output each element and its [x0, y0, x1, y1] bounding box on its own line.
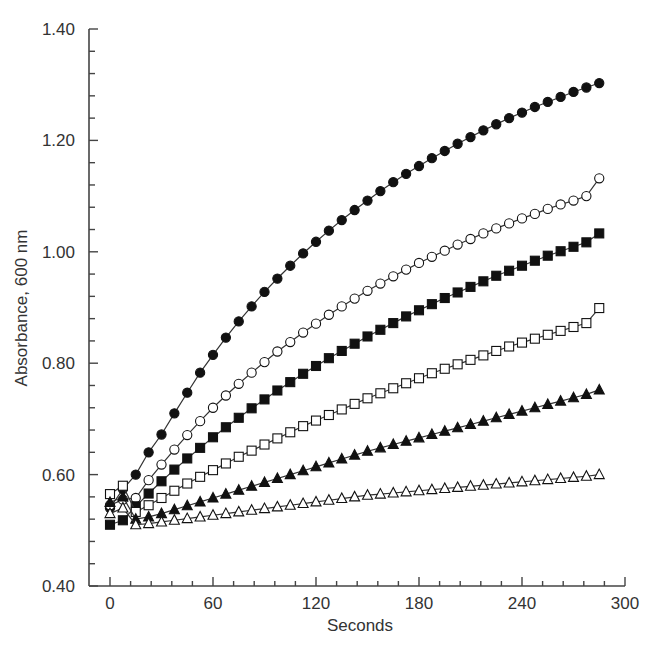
data-point — [196, 368, 205, 377]
data-point — [363, 394, 372, 403]
data-point — [208, 403, 217, 412]
data-point — [414, 161, 423, 170]
data-point — [299, 422, 308, 431]
data-point — [183, 454, 192, 463]
data-point — [479, 229, 488, 238]
data-point — [234, 317, 243, 326]
y-tick-label: 1.20 — [42, 131, 75, 150]
data-point — [517, 214, 526, 223]
data-point — [324, 411, 333, 420]
data-point — [337, 346, 346, 355]
data-point — [273, 347, 282, 356]
data-point — [376, 389, 385, 398]
data-point — [157, 477, 166, 486]
data-point — [582, 83, 591, 92]
data-point — [415, 374, 424, 383]
data-point — [479, 277, 488, 286]
data-point — [569, 87, 578, 96]
data-point — [595, 78, 604, 87]
data-point — [479, 126, 488, 135]
data-point — [427, 300, 436, 309]
data-point — [543, 330, 552, 339]
data-point — [196, 443, 205, 452]
data-point — [389, 178, 398, 187]
data-point — [312, 416, 321, 425]
data-point — [247, 368, 256, 377]
data-point — [389, 319, 398, 328]
data-point — [505, 114, 514, 123]
data-point — [324, 354, 333, 363]
data-point — [466, 282, 475, 291]
data-point — [234, 413, 243, 422]
data-point — [131, 470, 140, 479]
y-tick-label: 1.40 — [42, 20, 75, 39]
data-point — [440, 146, 449, 155]
data-point — [427, 369, 436, 378]
data-point — [183, 388, 192, 397]
data-point — [569, 196, 578, 205]
data-point — [402, 379, 411, 388]
series-triangle-open — [105, 469, 604, 529]
data-point — [402, 169, 411, 178]
data-point — [157, 460, 166, 469]
data-point — [594, 469, 604, 479]
x-tick-label: 0 — [105, 594, 114, 613]
data-point — [453, 139, 462, 148]
data-point — [466, 234, 475, 243]
data-point — [453, 240, 462, 249]
data-point — [363, 286, 372, 295]
data-point — [144, 489, 153, 498]
data-point — [131, 493, 140, 502]
data-point — [144, 476, 153, 485]
data-point — [324, 226, 333, 235]
data-point — [157, 493, 166, 502]
data-point — [492, 120, 501, 129]
data-point — [518, 261, 527, 270]
data-point — [337, 215, 346, 224]
data-point — [273, 434, 282, 443]
series-square-filled — [106, 229, 604, 529]
data-point — [260, 440, 269, 449]
data-point — [209, 433, 218, 442]
data-point — [337, 302, 346, 311]
data-point — [363, 196, 372, 205]
data-point — [286, 337, 295, 346]
data-point — [453, 360, 462, 369]
data-point — [350, 294, 359, 303]
data-point — [595, 229, 604, 238]
data-point — [556, 92, 565, 101]
data-point — [440, 246, 449, 255]
x-axis-title: Seconds — [327, 616, 393, 635]
data-point — [311, 237, 320, 246]
y-axis-title: Absorbance, 600 nm — [12, 230, 31, 387]
data-point — [556, 247, 565, 256]
data-point — [221, 333, 230, 342]
data-point — [221, 459, 230, 468]
data-point — [505, 342, 514, 351]
data-point — [144, 501, 153, 510]
series-square-open — [106, 304, 604, 517]
data-point — [543, 251, 552, 260]
data-point — [273, 274, 282, 283]
data-point — [479, 351, 488, 360]
x-tick-label: 180 — [405, 594, 433, 613]
data-point — [530, 102, 539, 111]
data-point — [582, 238, 591, 247]
data-point — [106, 520, 115, 529]
data-point — [273, 386, 282, 395]
data-point — [247, 302, 256, 311]
data-point — [402, 312, 411, 321]
data-point — [286, 428, 295, 437]
data-point — [556, 200, 565, 209]
data-point — [414, 258, 423, 267]
data-point — [157, 430, 166, 439]
data-point — [569, 242, 578, 251]
data-point — [144, 448, 153, 457]
data-point — [170, 465, 179, 474]
data-point — [260, 395, 269, 404]
data-point — [170, 409, 179, 418]
data-point — [234, 379, 243, 388]
data-point — [260, 287, 269, 296]
y-tick-label: 0.40 — [42, 577, 75, 596]
data-point — [118, 481, 127, 490]
